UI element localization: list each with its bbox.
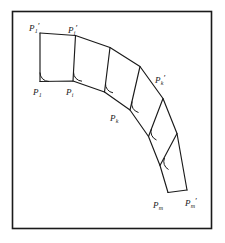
label-p2: Pi xyxy=(66,86,74,98)
label-p2-prime: Pi′ xyxy=(68,24,78,36)
right-angle-icon xyxy=(40,73,49,82)
label-base: P xyxy=(29,23,35,33)
label-prime: ′ xyxy=(75,23,77,33)
label-base: P xyxy=(33,87,39,97)
figure-container: P1′ Pi′ P1 Pi Pk′ Pk Pm Pm′ xyxy=(0,0,225,243)
rib-segment xyxy=(168,190,187,193)
label-pm-prime: Pm′ xyxy=(185,197,197,209)
label-base: P xyxy=(153,200,159,210)
right-angle-icon xyxy=(73,72,82,81)
right-angle-marks-group xyxy=(40,72,169,170)
right-angle-icon xyxy=(151,129,157,141)
label-prime: ′ xyxy=(163,73,165,83)
label-p1: P1 xyxy=(33,86,42,98)
label-prime: ′ xyxy=(195,196,197,206)
label-prime: ′ xyxy=(38,21,40,31)
label-pk: Pk xyxy=(110,112,119,124)
right-angle-icon xyxy=(132,102,139,113)
label-pk-prime: Pk′ xyxy=(155,74,166,86)
right-angle-icon xyxy=(164,158,169,170)
label-base: P xyxy=(68,25,74,35)
label-base: P xyxy=(110,113,116,123)
label-pm: Pm xyxy=(153,199,163,211)
label-base: P xyxy=(66,87,72,97)
rib-segment xyxy=(160,134,177,166)
label-base: P xyxy=(155,75,161,85)
right-angle-icon xyxy=(105,83,113,93)
label-base: P xyxy=(185,198,191,208)
label-p1-prime: P1′ xyxy=(29,22,40,34)
